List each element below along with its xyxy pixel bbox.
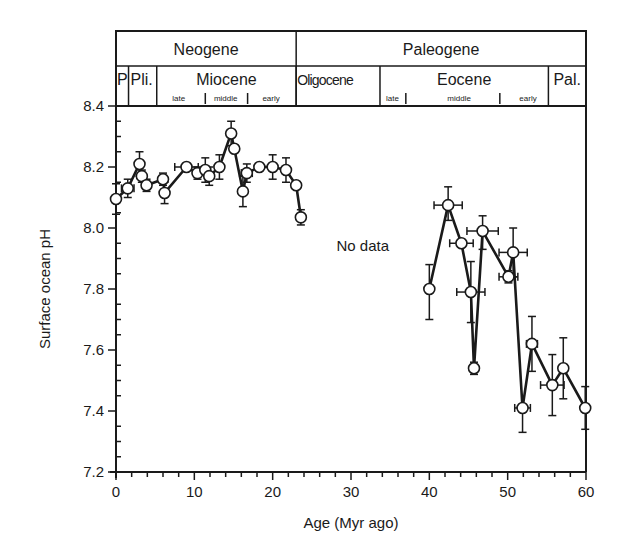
geologic-timescale-header: NeogenePaleogenePPli.Miocenelatemiddleea…	[116, 31, 586, 106]
series-2	[424, 187, 591, 433]
sub-epoch-label: early	[262, 94, 279, 103]
data-point-marker	[280, 165, 291, 176]
data-point-marker	[267, 162, 278, 173]
data-point-marker	[159, 187, 170, 198]
y-tick-label: 8.2	[83, 158, 104, 175]
annotations: No data	[336, 237, 389, 254]
y-axis-label: Surface ocean pH	[36, 229, 53, 349]
epoch-label-oligocene: Oligocene	[297, 72, 354, 88]
x-tick-label: 50	[499, 483, 516, 500]
data-point-marker	[517, 402, 528, 413]
data-point-marker	[204, 171, 215, 182]
data-point-marker	[508, 247, 519, 258]
data-point-marker	[111, 194, 122, 205]
data-point-marker	[580, 402, 591, 413]
data-point-marker	[503, 271, 514, 282]
data-point-marker	[456, 238, 467, 249]
data-point-marker	[424, 284, 435, 295]
epoch-label-pli: Pli.	[131, 71, 153, 88]
chart: NeogenePaleogenePPli.Miocenelatemiddleea…	[0, 0, 619, 556]
data-point-marker	[558, 363, 569, 374]
y-tick-label: 7.8	[83, 280, 104, 297]
x-tick-label: 60	[578, 483, 595, 500]
series-1	[111, 121, 307, 225]
epoch-label-p: P	[117, 71, 128, 88]
axes: 01020304050607.27.47.67.88.08.28.4	[83, 31, 594, 500]
x-tick-label: 0	[112, 483, 120, 500]
y-tick-label: 7.2	[83, 463, 104, 480]
sub-epoch-label: middle	[447, 94, 471, 103]
epoch-label-miocene: Miocene	[196, 71, 257, 88]
data-point-marker	[477, 226, 488, 237]
y-tick-label: 7.4	[83, 402, 104, 419]
sub-epoch-label: middle	[214, 94, 238, 103]
data-point-marker	[241, 168, 252, 179]
data-point-marker	[158, 174, 169, 185]
data-point-marker	[226, 128, 237, 139]
data-point-marker	[122, 183, 133, 194]
data-point-marker	[214, 162, 225, 173]
x-tick-label: 10	[186, 483, 203, 500]
x-tick-label: 20	[264, 483, 281, 500]
data-point-marker	[254, 162, 265, 173]
data-point-marker	[465, 287, 476, 298]
series-line	[429, 205, 585, 408]
data-point-marker	[141, 180, 152, 191]
sub-epoch-label: early	[519, 94, 536, 103]
data-point-marker	[547, 380, 558, 391]
y-tick-label: 7.6	[83, 341, 104, 358]
x-tick-label: 40	[421, 483, 438, 500]
epoch-label-pal: Pal.	[553, 71, 581, 88]
period-label-neogene: Neogene	[174, 41, 239, 58]
data-point-marker	[181, 162, 192, 173]
data-point-marker	[229, 143, 240, 154]
data-point-marker	[237, 186, 248, 197]
data-point-marker	[526, 338, 537, 349]
data-series	[111, 121, 591, 432]
annotation-no-data: No data	[336, 237, 389, 254]
sub-epoch-label: late	[172, 94, 185, 103]
sub-epoch-label: late	[386, 94, 399, 103]
y-tick-label: 8.4	[83, 97, 104, 114]
data-point-marker	[134, 158, 145, 169]
data-point-marker	[291, 180, 302, 191]
x-axis-label: Age (Myr ago)	[303, 514, 398, 531]
x-tick-label: 30	[343, 483, 360, 500]
epoch-label-eocene: Eocene	[437, 71, 491, 88]
data-point-marker	[468, 363, 479, 374]
y-tick-label: 8.0	[83, 219, 104, 236]
data-point-marker	[443, 200, 454, 211]
period-label-paleogene: Paleogene	[403, 41, 480, 58]
data-point-marker	[295, 212, 306, 223]
